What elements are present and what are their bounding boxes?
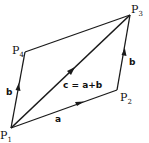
- edge-p4-p3: [25, 15, 130, 52]
- vector-label-a: a: [55, 115, 61, 124]
- point-label-p3: P3: [131, 4, 143, 18]
- arrow-a-icon: [75, 102, 84, 106]
- diagram-lines: [0, 0, 149, 143]
- point-label-p1: P1: [0, 130, 12, 143]
- vector-label-b-left: b: [6, 88, 12, 97]
- edge-p1-p2: [11, 90, 117, 128]
- point-label-p2: P2: [120, 92, 132, 106]
- vector-label-b-right: b: [129, 58, 135, 67]
- vector-diagram: P1 P2 P3 P4 a b b c = a+b: [0, 0, 149, 143]
- vector-label-c: c = a+b: [63, 81, 102, 90]
- arrow-b-left-icon: [16, 83, 21, 91]
- point-label-p4: P4: [12, 45, 24, 59]
